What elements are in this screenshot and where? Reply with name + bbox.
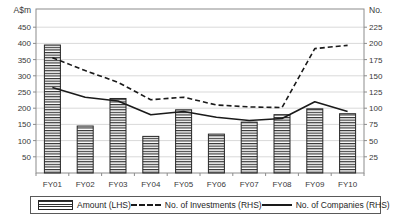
right-axis-title: No. bbox=[369, 5, 382, 15]
x-label-FY02: FY02 bbox=[76, 180, 96, 189]
x-label-FY08: FY08 bbox=[272, 180, 292, 189]
legend: Amount (LHS) No. of Investments (RHS) No… bbox=[30, 196, 381, 214]
bar-FY08 bbox=[274, 115, 290, 173]
right-tick-175: 175 bbox=[369, 56, 383, 65]
left-axis-title: A$m bbox=[14, 5, 31, 15]
chart-figure: A$mNo.4504003503002502001501005022520017… bbox=[0, 0, 397, 221]
series-amount-bars bbox=[44, 45, 355, 173]
legend-item-companies: No. of Companies (RHS) bbox=[262, 200, 390, 210]
right-tick-75: 75 bbox=[369, 120, 378, 129]
bar-FY02 bbox=[77, 126, 93, 173]
left-tick-450: 450 bbox=[18, 23, 32, 32]
legend-label-investments: No. of Investments (RHS) bbox=[165, 200, 262, 210]
left-tick-200: 200 bbox=[18, 104, 32, 113]
x-label-FY05: FY05 bbox=[174, 180, 194, 189]
right-tick-200: 200 bbox=[369, 39, 383, 48]
x-label-FY07: FY07 bbox=[240, 180, 260, 189]
right-tick-125: 125 bbox=[369, 88, 383, 97]
right-tick-150: 150 bbox=[369, 72, 383, 81]
x-label-FY04: FY04 bbox=[141, 180, 161, 189]
bar-FY10 bbox=[340, 114, 356, 173]
x-label-FY06: FY06 bbox=[207, 180, 227, 189]
x-label-FY03: FY03 bbox=[108, 180, 128, 189]
bar-FY01 bbox=[44, 45, 60, 173]
legend-item-amount: Amount (LHS) bbox=[38, 200, 131, 210]
right-tick-50: 50 bbox=[369, 137, 378, 146]
chart-svg: A$mNo.4504003503002502001501005022520017… bbox=[0, 0, 397, 196]
right-tick-225: 225 bbox=[369, 23, 383, 32]
legend-item-investments: No. of Investments (RHS) bbox=[131, 200, 262, 210]
left-tick-350: 350 bbox=[18, 56, 32, 65]
right-tick-100: 100 bbox=[369, 104, 383, 113]
legend-label-amount: Amount (LHS) bbox=[77, 200, 131, 210]
right-tick-25: 25 bbox=[369, 153, 378, 162]
legend-label-companies: No. of Companies (RHS) bbox=[296, 200, 390, 210]
x-label-FY09: FY09 bbox=[305, 180, 325, 189]
x-label-FY01: FY01 bbox=[43, 180, 63, 189]
left-tick-100: 100 bbox=[18, 137, 32, 146]
left-tick-250: 250 bbox=[18, 88, 32, 97]
bar-FY09 bbox=[307, 109, 323, 173]
left-tick-50: 50 bbox=[22, 153, 31, 162]
left-tick-400: 400 bbox=[18, 39, 32, 48]
striped-bar-swatch-icon bbox=[38, 200, 73, 210]
solid-line-swatch-icon bbox=[262, 204, 292, 206]
bar-FY07 bbox=[241, 122, 257, 173]
bar-FY05 bbox=[176, 110, 192, 173]
left-tick-300: 300 bbox=[18, 72, 32, 81]
x-label-FY10: FY10 bbox=[338, 180, 358, 189]
bar-FY03 bbox=[110, 98, 126, 173]
left-tick-150: 150 bbox=[18, 120, 32, 129]
bar-FY04 bbox=[143, 136, 159, 173]
bar-FY06 bbox=[208, 134, 224, 173]
dashed-line-swatch-icon bbox=[131, 204, 161, 206]
